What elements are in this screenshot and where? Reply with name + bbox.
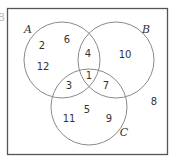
region-a-only-value: 6 (64, 34, 70, 45)
region-abc-value: 1 (86, 70, 92, 81)
region-a-only-value: 2 (39, 40, 45, 51)
region-a-only-value: 12 (37, 61, 50, 72)
region-b-only-value: 10 (119, 49, 132, 60)
set-b-label: B (141, 23, 150, 36)
region-outside-value: 8 (151, 96, 157, 107)
set-a-label: A (23, 23, 32, 36)
venn-diagram: B A B C 2 6 12 10 4 1 3 7 11 5 9 8 (0, 0, 172, 164)
region-c-only-value: 11 (63, 113, 76, 124)
edge-cut-label: B (0, 12, 5, 23)
set-c-label: C (120, 126, 129, 139)
region-bc-value: 7 (103, 80, 109, 91)
region-ac-value: 3 (66, 80, 72, 91)
region-c-only-value: 5 (84, 104, 90, 115)
region-ab-value: 4 (85, 48, 91, 59)
region-c-only-value: 9 (106, 113, 112, 124)
